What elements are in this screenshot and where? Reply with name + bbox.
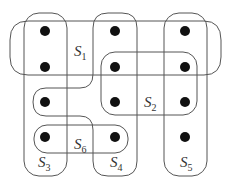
set-s3-boundary bbox=[24, 13, 67, 176]
vertex-dot bbox=[180, 62, 190, 72]
set-label-s1: S1 bbox=[74, 44, 87, 62]
vertex-dot bbox=[180, 132, 190, 142]
vertex-dot bbox=[180, 26, 190, 36]
set-s5-boundary bbox=[164, 13, 207, 176]
vertex-dot bbox=[110, 97, 120, 107]
vertex-dot bbox=[110, 132, 120, 142]
set-label-s3: S3 bbox=[38, 155, 51, 173]
set-label-s6: S6 bbox=[74, 137, 87, 155]
set-label-s5: S5 bbox=[180, 155, 193, 173]
vertex-dot bbox=[110, 62, 120, 72]
vertex-dot bbox=[40, 132, 50, 142]
vertex-dot bbox=[40, 62, 50, 72]
vertex-dot bbox=[180, 97, 190, 107]
vertex-dot bbox=[40, 26, 50, 36]
set-label-s4: S4 bbox=[110, 155, 123, 173]
vertex-dot bbox=[40, 97, 50, 107]
vertex-dot bbox=[110, 26, 120, 36]
set-label-s2: S2 bbox=[144, 95, 157, 113]
